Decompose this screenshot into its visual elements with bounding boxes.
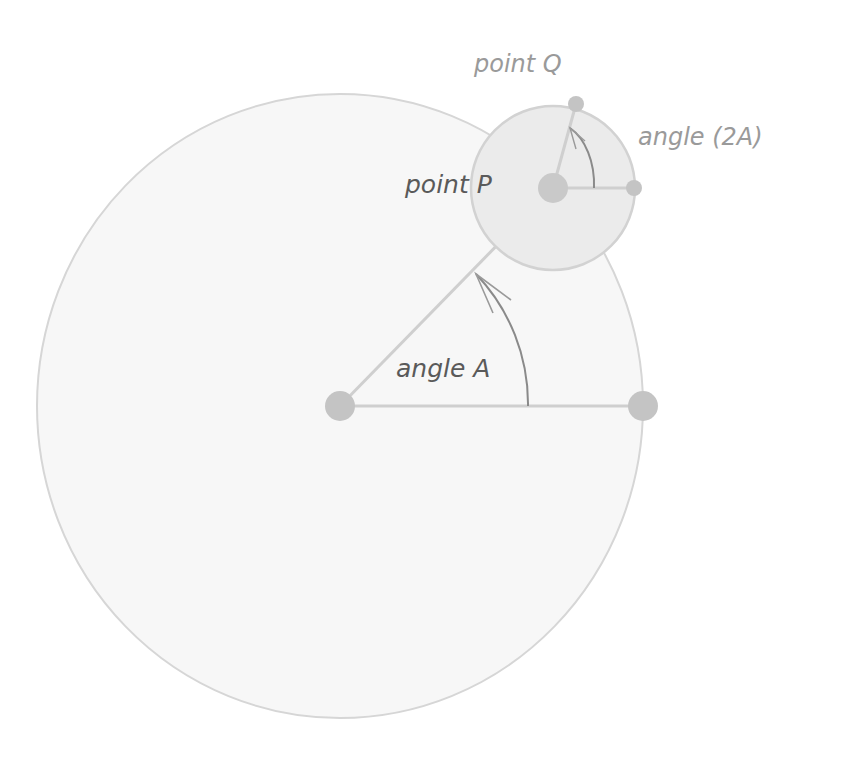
angle-a-label: angle A (396, 356, 490, 381)
point-p-dot (538, 173, 568, 203)
small-edge-dot (626, 180, 642, 196)
point-q-dot (568, 96, 584, 112)
angle-2a-label: angle (2A) (638, 125, 763, 149)
center-dot (325, 391, 355, 421)
big-edge-dot (628, 391, 658, 421)
point-p-label: point P (405, 172, 492, 197)
point-q-label: point Q (474, 52, 562, 76)
